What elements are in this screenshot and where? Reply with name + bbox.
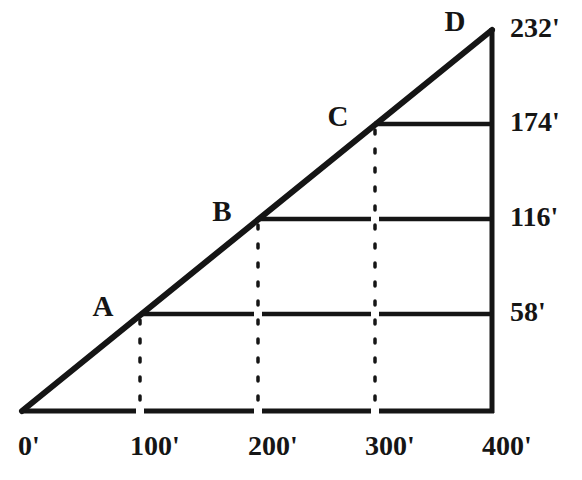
vertex-label-c: C [321, 102, 355, 131]
distance-label-200: 200' [229, 432, 317, 460]
distance-label-300: 300' [346, 432, 434, 460]
vertex-label-a: A [86, 292, 120, 321]
vertex-label-b: B [205, 197, 239, 226]
elevation-label-58: 58' [510, 298, 546, 326]
figure-canvas: A B C D 232' 174' 116' 58' 0' 100' 200' … [0, 0, 582, 480]
distance-label-400: 400' [463, 432, 551, 460]
slope-profile-diagram [0, 0, 582, 480]
vertex-label-d: D [438, 7, 472, 36]
elevation-label-174: 174' [510, 108, 560, 136]
elevation-label-232: 232' [510, 14, 560, 42]
distance-label-100: 100' [111, 432, 199, 460]
distance-label-0: 0' [0, 432, 58, 460]
elevation-label-116: 116' [510, 203, 558, 231]
